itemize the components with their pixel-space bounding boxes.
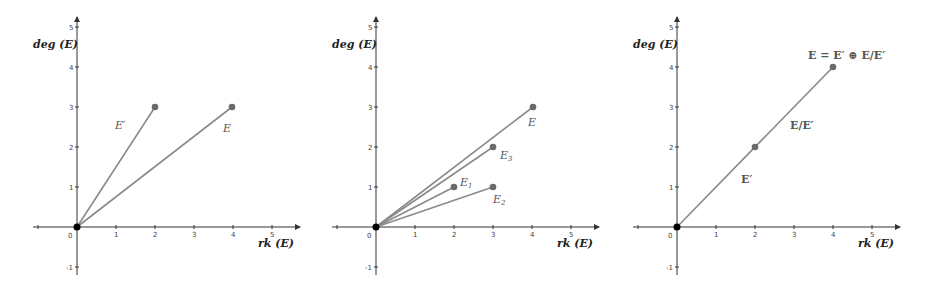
y-tick-neg1: -1 <box>66 264 73 272</box>
segment-e3 <box>376 147 493 227</box>
label-e-prime: E′ <box>114 119 126 132</box>
y-tick-4: 4 <box>669 64 674 72</box>
point-e <box>229 104 236 111</box>
y-tick-3: 3 <box>368 104 372 112</box>
y-tick-3: 3 <box>669 104 673 112</box>
x-tick-3: 3 <box>192 231 196 239</box>
y-tick-2: 2 <box>669 144 673 152</box>
x-tick-3: 3 <box>491 231 495 239</box>
label-e3: E3 <box>499 149 513 163</box>
x-tick-4: 4 <box>831 231 836 239</box>
segment-e <box>376 107 533 227</box>
point-e-prime <box>152 104 159 111</box>
y-tick-5: 5 <box>669 24 673 32</box>
y-tick-5: 5 <box>368 24 372 32</box>
point-e1 <box>451 184 458 191</box>
x-axis-label: rk (E) <box>858 237 894 250</box>
chart-2: 0 1 2 3 4 5 5 4 3 2 1 -1 deg (E) rk (E) … <box>332 17 599 275</box>
x-tick-1: 1 <box>114 231 118 239</box>
point-e <box>530 104 537 111</box>
label-quotient: E/E′ <box>790 119 814 132</box>
segment-e1 <box>376 187 454 227</box>
y-axis-label: deg (E) <box>332 38 377 51</box>
y-tick-1: 1 <box>69 184 73 192</box>
charts-canvas: 0 1 2 3 4 5 5 4 3 2 1 -1 deg (E) rk (E) … <box>0 0 932 288</box>
chart-1: 0 1 2 3 4 5 5 4 3 2 1 -1 deg (E) rk (E) … <box>33 17 300 275</box>
x-tick-2: 2 <box>153 231 157 239</box>
segment-e <box>77 107 232 227</box>
x-tick-4: 4 <box>530 231 535 239</box>
x-tick-3: 3 <box>792 231 796 239</box>
x-tick-1: 1 <box>714 231 718 239</box>
x-tick-2: 2 <box>753 231 757 239</box>
y-tick-3: 3 <box>69 104 73 112</box>
x-tick-1: 1 <box>413 231 417 239</box>
label-e1: E1 <box>459 176 473 190</box>
y-tick-1: 1 <box>669 184 673 192</box>
point-e-prime <box>752 144 759 151</box>
y-axis-label: deg (E) <box>33 38 78 51</box>
point-e2 <box>490 184 497 191</box>
label-e: E <box>527 116 536 129</box>
label-e-prime: E′ <box>741 173 752 186</box>
x-tick-0: 0 <box>367 232 371 240</box>
y-tick-2: 2 <box>368 144 372 152</box>
point-e <box>830 64 837 71</box>
x-tick-2: 2 <box>452 231 456 239</box>
x-tick-0: 0 <box>668 232 672 240</box>
x-axis-label: rk (E) <box>557 237 593 250</box>
y-tick-5: 5 <box>69 24 73 32</box>
y-tick-1: 1 <box>368 184 372 192</box>
y-axis-label: deg (E) <box>633 38 678 51</box>
label-e2: E2 <box>492 193 506 207</box>
origin-point <box>373 224 380 231</box>
x-tick-4: 4 <box>231 231 236 239</box>
y-tick-4: 4 <box>69 64 74 72</box>
y-tick-2: 2 <box>69 144 73 152</box>
chart-3: 0 1 2 3 4 5 5 4 3 2 1 -1 deg (E) rk (E) … <box>633 17 900 275</box>
label-e: E <box>222 122 231 135</box>
origin-point <box>74 224 81 231</box>
segment-e2 <box>376 187 493 227</box>
y-tick-neg1: -1 <box>365 264 372 272</box>
label-direct-sum: E = E′ ⊕ E/E′ <box>808 49 885 62</box>
y-tick-4: 4 <box>368 64 373 72</box>
y-tick-neg1: -1 <box>666 264 673 272</box>
origin-point <box>674 224 681 231</box>
x-tick-0: 0 <box>68 232 72 240</box>
point-e3 <box>490 144 497 151</box>
x-axis-label: rk (E) <box>258 237 294 250</box>
